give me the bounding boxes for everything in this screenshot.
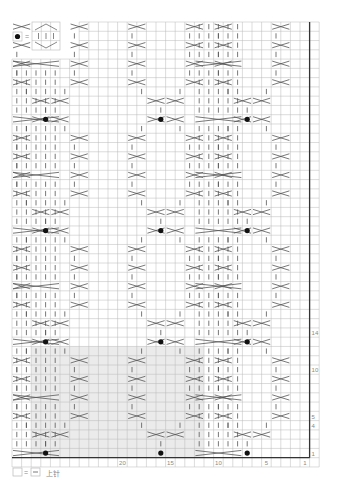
row-number-label: 14 [312,330,319,336]
legend-equals: = [24,469,28,476]
bobble-stitch [245,450,250,455]
legend-bobble-icon [15,34,20,39]
bobble-stitch [245,228,250,233]
bobble-stitch [43,450,48,455]
row-number-label: 1 [312,451,316,457]
knitting-chart: 201510511451014== [0,0,340,501]
bobble-stitch [158,117,163,122]
legend-empty-cell [13,468,22,476]
bobble-stitch [158,228,163,233]
legend-equals: = [25,33,29,40]
bobble-stitch [43,228,48,233]
legend-purl-label: 上针 [46,468,60,478]
bobble-stitch [43,339,48,344]
stitch-number-label: 20 [119,460,126,466]
bobble-stitch [43,117,48,122]
stitch-number-label: 15 [167,460,174,466]
bobble-stitch [158,339,163,344]
stitch-number-label: 5 [265,460,269,466]
row-number-label: 10 [312,367,319,373]
row-number-label: 4 [312,423,316,429]
bobble-stitch [245,339,250,344]
bobble-stitch [245,117,250,122]
row-number-label: 5 [312,414,316,420]
stitch-number-label: 1 [303,460,307,466]
stitch-number-label: 10 [215,460,222,466]
bobble-stitch [158,450,163,455]
